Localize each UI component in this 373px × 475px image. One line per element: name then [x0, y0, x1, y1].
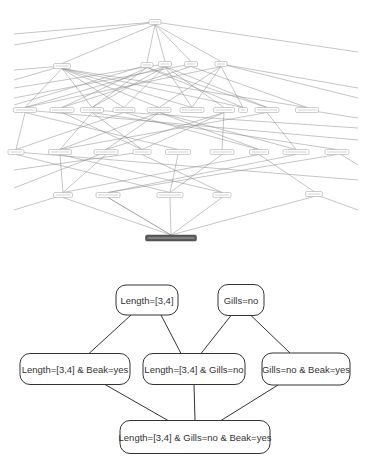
detail-node-label: Length=[3,4] & Beak=yes: [22, 364, 129, 375]
detail-node-label: Length=[3,4] & Gills=no: [144, 364, 243, 375]
detail-edge-n4-n6: [194, 385, 195, 421]
detail-edge-n3-n6: [105, 385, 168, 421]
detail-nodes: Length=[3,4]Gills=noLength=[3,4] & Beak=…: [20, 285, 350, 454]
detail-node-n4: Length=[3,4] & Gills=no: [143, 354, 245, 385]
detail-edge-n5-n6: [221, 385, 278, 421]
detail-node-n6: Length=[3,4] & Gills=no & Beak=yes: [119, 421, 272, 454]
detail-edge-n2-n4: [201, 316, 231, 354]
detail-node-label: Gills=no: [224, 295, 259, 306]
detail-node-label: Length=[3,4] & Gills=no & Beak=yes: [119, 432, 272, 443]
detail-node-n2: Gills=no: [218, 285, 264, 316]
detail-node-n3: Length=[3,4] & Beak=yes: [20, 354, 130, 385]
detail-node-label: Gills=no & Beak=yes: [262, 364, 350, 375]
detail-edge-n1-n3: [89, 315, 131, 354]
detail-node-n5: Gills=no & Beak=yes: [262, 353, 350, 385]
detail-node-label: Length=[3,4]: [120, 295, 173, 306]
detail-lattice: Length=[3,4]Gills=noLength=[3,4] & Beak=…: [0, 0, 373, 475]
detail-node-n1: Length=[3,4]: [116, 285, 178, 315]
detail-edge-n2-n5: [251, 316, 290, 354]
detail-edge-n1-n4: [161, 315, 181, 354]
